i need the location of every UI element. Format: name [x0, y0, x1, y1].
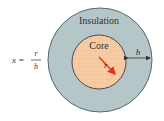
core-label: Core: [89, 40, 109, 51]
formula-denominator: h: [34, 62, 38, 71]
thickness-label: h: [136, 47, 141, 57]
formula-numerator: r: [34, 49, 38, 58]
insulated-core-diagram: Insulation Core r h x = r h: [0, 0, 164, 121]
formula: x = r h: [11, 49, 41, 71]
formula-lhs: x =: [11, 55, 24, 65]
insulation-label: Insulation: [79, 15, 119, 26]
radius-label: r: [104, 60, 108, 70]
